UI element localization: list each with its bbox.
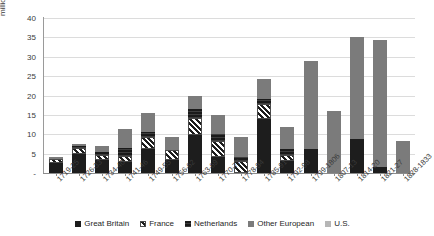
y-axis-tick: 25	[0, 72, 36, 81]
bar-segment-nl	[211, 134, 225, 141]
bar-segment-oe	[280, 127, 294, 149]
legend-item-us[interactable]: U.S.	[325, 219, 350, 228]
x-tick-slot: 1792-98	[276, 175, 299, 217]
bar-segment-fr	[188, 118, 202, 135]
bar-segment-oe	[257, 79, 271, 99]
x-tick-slot: 1726-33	[67, 175, 90, 217]
legend-label: Other European	[257, 219, 314, 228]
x-tick-slot: 1799-1806	[299, 175, 322, 217]
x-tick-slot: 1719-25	[44, 175, 67, 217]
y-axis-tick: 10	[0, 130, 36, 139]
stacked-bar[interactable]	[373, 40, 387, 173]
bar-segment-fr	[257, 104, 271, 119]
x-tick-slot: 1770-77	[206, 175, 229, 217]
stacked-bar[interactable]	[350, 37, 364, 173]
bar-slot	[345, 18, 368, 173]
bar-slot	[230, 18, 253, 173]
x-tick-slot: 1828-1833	[392, 175, 415, 217]
y-axis-tick: -	[0, 169, 36, 178]
legend-item-oe[interactable]: Other European	[248, 219, 314, 228]
x-tick-slot: 1756-62	[160, 175, 183, 217]
bar-segment-oe	[188, 96, 202, 110]
x-tick-slot: 1763-69	[183, 175, 206, 217]
bar-segment-fr	[211, 141, 225, 157]
legend-label: Netherlands	[194, 219, 237, 228]
bar-slot	[137, 18, 160, 173]
legend-swatch-icon	[75, 221, 81, 227]
y-axis-tick: 35	[0, 33, 36, 42]
y-axis-tick: 15	[0, 110, 36, 119]
bar-segment-oe	[118, 129, 132, 148]
bar-slot	[67, 18, 90, 173]
bar-slot	[392, 18, 415, 173]
x-tick-slot: 1821-27	[369, 175, 392, 217]
x-tick-slot: 1785-91	[253, 175, 276, 217]
bar-segment-nl	[188, 109, 202, 117]
legend-label: U.S.	[334, 219, 350, 228]
legend-item-fr[interactable]: France	[140, 219, 174, 228]
x-axis-tick-labels: 1719-251726-331734-401741-461749-551756-…	[44, 175, 415, 217]
y-axis-tick: 40	[0, 14, 36, 23]
x-tick-slot: 1814-20	[345, 175, 368, 217]
legend-label: Great Britain	[84, 219, 129, 228]
bar-segment-nl	[118, 148, 132, 156]
legend-swatch-icon	[185, 221, 191, 227]
y-axis-tick: 30	[0, 52, 36, 61]
legend-swatch-icon	[248, 221, 254, 227]
bar-segment-oe	[234, 137, 248, 157]
y-axis-tick-labels: -510152025303540	[0, 18, 40, 173]
bar-segment-fr	[141, 137, 155, 149]
legend-item-nl[interactable]: Netherlands	[185, 219, 237, 228]
y-axis-tick: 20	[0, 91, 36, 100]
x-tick-slot: 1741-46	[114, 175, 137, 217]
bar-segment-oe	[350, 37, 364, 139]
legend-item-gb[interactable]: Great Britain	[75, 219, 129, 228]
bar-segment-oe	[304, 61, 318, 149]
stacked-bar[interactable]	[304, 61, 318, 173]
bar-slot	[183, 18, 206, 173]
x-tick-slot: 1734-40	[90, 175, 113, 217]
bar-slot	[369, 18, 392, 173]
bar-segment-oe	[211, 115, 225, 134]
legend-swatch-icon	[325, 221, 331, 227]
bar-slot	[276, 18, 299, 173]
x-tick-slot: 1778-84	[230, 175, 253, 217]
x-tick-slot: 1807-13	[322, 175, 345, 217]
bar-series-group	[44, 18, 415, 173]
bar-slot	[44, 18, 67, 173]
bar-slot	[114, 18, 137, 173]
bar-slot	[90, 18, 113, 173]
bar-slot	[160, 18, 183, 173]
bar-segment-oe	[165, 137, 179, 149]
chart-legend: Great BritainFranceNetherlandsOther Euro…	[0, 219, 425, 228]
bar-slot	[299, 18, 322, 173]
bar-segment-oe	[141, 113, 155, 132]
bar-slot	[206, 18, 229, 173]
y-axis-tick: 5	[0, 149, 36, 158]
bar-slot	[253, 18, 276, 173]
legend-label: France	[149, 219, 174, 228]
bar-slot	[322, 18, 345, 173]
x-tick-slot: 1749-55	[137, 175, 160, 217]
plot-area	[44, 18, 415, 173]
legend-swatch-icon	[140, 221, 146, 227]
bar-segment-oe	[373, 40, 387, 167]
